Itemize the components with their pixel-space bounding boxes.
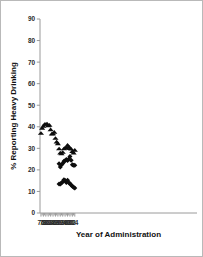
y-tick-label: 20 (28, 166, 36, 173)
data-point (48, 128, 54, 132)
y-tick-label: 0 (31, 209, 35, 216)
figure-frame: 0102030405060708090767880828486889092949… (0, 0, 203, 257)
y-tick-label: 90 (28, 15, 36, 22)
x-axis-title: Year of Administration (76, 230, 161, 239)
chart-area: 0102030405060708090767880828486889092949… (1, 1, 203, 257)
series-diamonds-middle (57, 154, 78, 170)
data-point (38, 131, 44, 135)
data-point (52, 136, 58, 140)
y-tick-label: 60 (28, 80, 36, 87)
y-tick-label: 80 (28, 37, 36, 44)
chart-svg: 0102030405060708090767880828486889092949… (1, 1, 203, 257)
y-tick-label: 10 (28, 188, 36, 195)
series-diamonds-lower (57, 177, 78, 190)
y-tick-label: 40 (28, 123, 36, 130)
y-tick-label: 50 (28, 102, 36, 109)
data-point (56, 147, 62, 151)
y-tick-label: 70 (28, 59, 36, 66)
x-tick-label: 04 (71, 219, 79, 226)
y-tick-label: 30 (28, 145, 36, 152)
series-triangles (38, 122, 78, 156)
y-axis-title: % Reporting Heavy Drinking (9, 62, 18, 170)
